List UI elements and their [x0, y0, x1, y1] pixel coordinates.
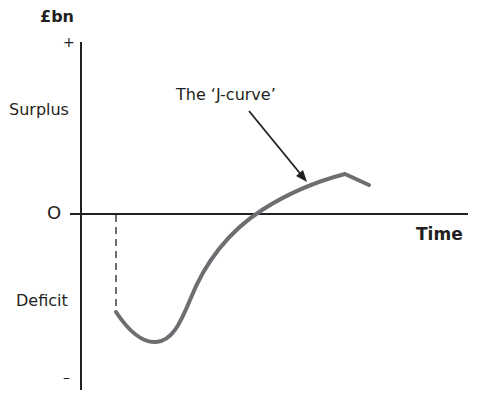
annotation-arrow-shaft [249, 111, 303, 177]
surplus-label: Surplus [9, 102, 69, 118]
deficit-label: Deficit [16, 293, 68, 309]
y-axis-unit-label: £bn [40, 9, 74, 25]
x-axis-time-label: Time [416, 226, 463, 243]
j-curve-line [116, 174, 369, 342]
y-axis-plus-marker: + [63, 35, 75, 49]
j-curve-annotation: The ‘J-curve’ [176, 87, 276, 103]
y-axis-minus-marker: – [63, 370, 70, 384]
zero-label: O [47, 204, 61, 222]
j-curve-diagram [0, 0, 479, 397]
